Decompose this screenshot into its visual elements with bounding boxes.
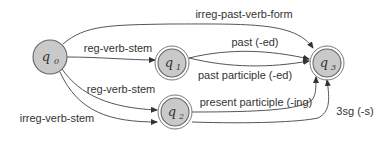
edge-q0-q1-reg [67,57,155,60]
state-q2: q 2 [158,95,192,129]
svg-text:q: q [320,55,328,70]
label-reg-verb-stem-2: reg-verb-stem [87,83,155,95]
state-q3: q 3 [310,46,344,80]
label-past-participle: past participle (-ed) [198,69,292,81]
svg-text:2: 2 [178,112,184,121]
state-q1: q 1 [155,46,189,80]
edge-q1-q3-pastpart [189,58,309,66]
svg-text:1: 1 [176,63,181,72]
label-reg-verb-stem-1: reg-verb-stem [84,42,152,54]
svg-text:q: q [42,49,50,64]
svg-text:3: 3 [331,63,336,72]
fsa-canvas: irreg-past-verb-form reg-verb-stem reg-v… [0,0,392,142]
label-3sg: 3sg (-s) [336,105,373,117]
svg-text:q: q [165,55,173,70]
svg-text:q: q [168,104,176,119]
label-irreg-past-verb-form: irreg-past-verb-form [195,8,292,20]
edge-q1-q3-past [189,51,309,59]
label-past-ed: past (-ed) [231,36,278,48]
label-present-participle: present participle (-ing) [200,96,313,108]
state-q0: q 0 [33,40,67,74]
fsa-diagram: irreg-past-verb-form reg-verb-stem reg-v… [0,0,392,142]
svg-text:0: 0 [54,57,59,66]
label-irreg-verb-stem: irreg-verb-stem [20,112,95,124]
